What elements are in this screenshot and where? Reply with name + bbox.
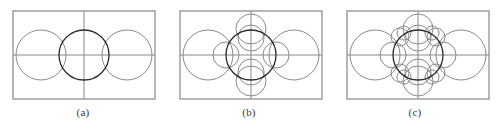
panel-c-axes [347,11,489,99]
panel-a-caption: (a) [0,106,166,118]
panel-a: (a) [0,0,166,136]
panel-a-canvas [0,0,166,106]
panel-b-axes [180,11,322,99]
panel-a-axes [13,11,155,99]
panel-b: (b) [166,0,332,136]
figure-root: (a) [0,0,499,136]
panel-c-canvas [332,0,499,106]
panel-b-caption: (b) [166,106,332,118]
panel-c: (c) [332,0,498,136]
panel-b-canvas [166,0,332,106]
panel-c-caption: (c) [332,106,498,118]
